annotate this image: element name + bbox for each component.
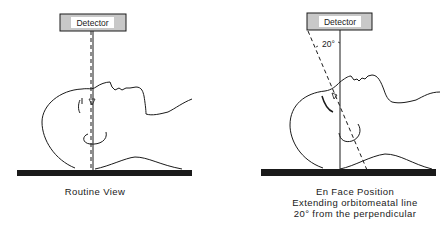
beam-line-right (308, 31, 367, 170)
panel-en-face-position: Detector 20° (261, 13, 440, 176)
caption-line: 20° from the perpendicular (275, 208, 435, 219)
detector-left: Detector (60, 14, 126, 31)
neck-outline-right (340, 154, 432, 169)
panel-routine-view: Detector (17, 14, 192, 176)
caption-routine-view: Routine View (55, 186, 135, 197)
detector-right: Detector (307, 13, 372, 30)
head-outline-right (290, 75, 440, 168)
table-right (261, 169, 436, 176)
ear-left (84, 132, 107, 144)
caption-en-face-position: En Face Position Extending orbitomeatal … (275, 186, 435, 219)
detector-label-right: Detector (324, 17, 356, 27)
table-left (17, 170, 192, 176)
caption-line: Extending orbitomeatal line (275, 197, 435, 208)
caption-line: En Face Position (275, 186, 435, 197)
head-outline-left (42, 82, 192, 168)
neck-outline-left (95, 157, 182, 169)
angle-label: 20° (322, 39, 335, 49)
orbit-mark-left (79, 98, 83, 113)
detector-label-left: Detector (76, 18, 108, 28)
ear-right (339, 124, 360, 142)
orbit-mark-right (322, 96, 333, 112)
caption-line: Routine View (55, 186, 135, 197)
arrowhead-left (89, 99, 95, 105)
